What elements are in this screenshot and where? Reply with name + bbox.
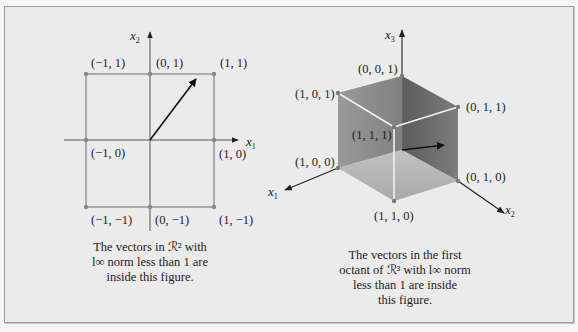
cube-figure: x3 x1 x2 (0, 0, 1) (1, 0, 1) (0, 1, 1) (… xyxy=(267,27,515,223)
caption-line: The vectors in ℛ² with xyxy=(70,240,230,255)
x3-axis-label: x3 xyxy=(384,27,395,44)
point-label: (1, 1, 0) xyxy=(374,209,414,223)
point-label: (0, −1) xyxy=(155,213,189,227)
point-label: (0, 1) xyxy=(156,56,183,70)
point-label: (0, 0, 1) xyxy=(358,62,398,76)
x2-axis-3d xyxy=(458,181,504,213)
point-label: (0, 1, 1) xyxy=(466,100,506,114)
point-label: (1, −1) xyxy=(219,213,253,227)
point-label: (0, 1, 0) xyxy=(466,170,506,184)
caption-line: this figure. xyxy=(320,293,490,308)
point-label: (−1, 0) xyxy=(91,146,125,160)
square-figure: x2 x1 (−1, 1) (0, 1) (1, 1) (−1, 0) (1, … xyxy=(64,28,256,231)
caption-line: inside this figure. xyxy=(70,270,230,285)
x2-axis-label-3d: x2 xyxy=(504,202,515,219)
x1-axis-label-3d: x1 xyxy=(267,184,278,201)
caption-line: octant of ℛ³ with l∞ norm xyxy=(320,263,490,278)
left-caption: The vectors in ℛ² with l∞ norm less than… xyxy=(70,240,230,285)
point-label: (1, 0) xyxy=(219,147,246,161)
point-label: (1, 0, 1) xyxy=(295,87,335,101)
x2-axis-label: x2 xyxy=(129,28,140,45)
x1-axis-3d xyxy=(285,168,338,190)
vector-arrow xyxy=(150,79,196,140)
point-label: (1, 1, 1) xyxy=(352,128,392,142)
caption-line: The vectors in the first xyxy=(320,248,490,263)
caption-line: less than 1 are inside xyxy=(320,278,490,293)
x1-axis-label: x1 xyxy=(245,134,256,151)
right-caption: The vectors in the first octant of ℛ³ wi… xyxy=(320,248,490,308)
caption-line: l∞ norm less than 1 are xyxy=(70,255,230,270)
point-label: (−1, −1) xyxy=(91,213,132,227)
point-label: (−1, 1) xyxy=(91,56,125,70)
point-label: (1, 1) xyxy=(220,56,247,70)
point-label: (1, 0, 0) xyxy=(295,155,335,169)
